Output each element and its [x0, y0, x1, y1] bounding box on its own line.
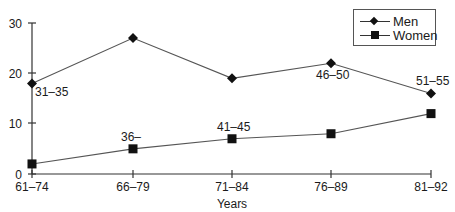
legend-label-women: Women: [393, 28, 438, 43]
x-tick-label: 71–84: [215, 180, 249, 194]
men-series-line: [32, 38, 431, 93]
diamond-marker-icon: [426, 88, 436, 98]
annotation-31-35: 31–35: [35, 85, 69, 99]
legend: Men Women: [353, 9, 436, 46]
diamond-marker-icon: [128, 33, 138, 43]
square-marker-icon: [427, 109, 436, 118]
y-tick-label-10: 10: [9, 117, 23, 131]
diamond-marker-icon: [326, 58, 336, 68]
legend-item-women: Women: [360, 28, 438, 42]
x-tick-label: 81–92: [414, 180, 448, 194]
legend-label-men: Men: [393, 14, 418, 29]
x-tick-label: 66–79: [116, 180, 150, 194]
square-marker-icon: [360, 28, 390, 42]
square-marker-icon: [129, 144, 138, 153]
legend-item-men: Men: [360, 14, 418, 28]
diamond-marker-icon: [360, 14, 390, 28]
x-axis-title: Years: [217, 197, 247, 211]
square-marker-icon: [228, 134, 237, 143]
annotation-46-50: 46–50: [316, 68, 350, 82]
women-markers: [28, 109, 436, 168]
x-tick-label: 76–89: [314, 180, 348, 194]
annotation-51-55: 51–55: [416, 74, 450, 88]
diamond-marker-icon: [227, 73, 237, 83]
y-tick-label-20: 20: [9, 67, 23, 81]
annotation-36: 36–: [121, 130, 141, 144]
x-tick-label: 61–74: [15, 180, 49, 194]
annotation-41-45: 41–45: [217, 120, 251, 134]
square-marker-icon: [327, 129, 336, 138]
y-tick-label-30: 30: [9, 17, 23, 31]
square-marker-icon: [28, 159, 37, 168]
